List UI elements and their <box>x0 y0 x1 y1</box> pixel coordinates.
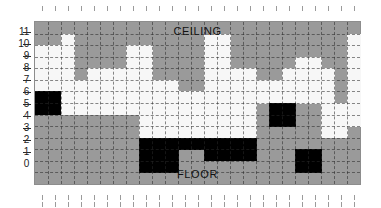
open-cell <box>165 103 179 115</box>
x-tick-mark <box>94 202 95 207</box>
x-tick-mark <box>328 195 329 200</box>
open-cell <box>35 45 49 57</box>
open-cell <box>87 103 101 115</box>
open-cell <box>126 57 140 69</box>
open-cell <box>139 45 153 57</box>
solid-cell <box>35 91 49 103</box>
open-cell <box>139 103 153 115</box>
open-cell <box>282 91 296 103</box>
x-tick-mark <box>107 6 108 11</box>
x-tick-mark <box>263 6 264 11</box>
open-cell <box>243 126 257 138</box>
open-cell <box>139 126 153 138</box>
open-cell <box>139 91 153 103</box>
y-tick-dash <box>23 68 31 69</box>
solid-cell <box>165 149 179 161</box>
open-cell <box>230 91 244 103</box>
solid-cell <box>165 138 179 150</box>
open-cell <box>243 80 257 92</box>
x-tick-mark <box>55 6 56 11</box>
gridline-vertical <box>74 22 75 184</box>
open-cell <box>61 80 75 92</box>
x-tick-mark <box>341 202 342 207</box>
open-cell <box>230 68 244 80</box>
open-cell <box>178 115 192 127</box>
y-tick-dash <box>23 140 31 141</box>
x-tick-mark <box>133 6 134 11</box>
x-tick-mark <box>172 195 173 200</box>
open-cell <box>230 80 244 92</box>
y-tick-dash <box>23 32 31 33</box>
x-tick-mark <box>159 6 160 11</box>
gridline-vertical <box>269 22 270 184</box>
x-tick-mark <box>354 202 355 207</box>
x-tick-mark <box>237 202 238 207</box>
open-cell <box>152 103 166 115</box>
x-tick-mark <box>94 195 95 200</box>
open-cell <box>113 91 127 103</box>
x-tick-mark <box>146 6 147 11</box>
x-tick-mark <box>341 195 342 200</box>
x-tick-mark <box>159 202 160 207</box>
x-tick-mark <box>211 195 212 200</box>
x-tick-mark <box>198 195 199 200</box>
solid-cell <box>282 103 296 115</box>
x-tick-mark <box>133 202 134 207</box>
open-cell <box>48 45 62 57</box>
solid-cell <box>295 149 309 161</box>
open-cell <box>321 80 335 92</box>
open-cell <box>230 103 244 115</box>
open-cell <box>321 91 335 103</box>
open-cell <box>74 103 88 115</box>
x-tick-mark <box>42 195 43 200</box>
gridline-vertical <box>308 22 309 184</box>
gridline-vertical <box>100 22 101 184</box>
open-cell <box>100 80 114 92</box>
x-tick-mark <box>81 202 82 207</box>
open-cell <box>35 57 49 69</box>
x-tick-mark <box>302 6 303 11</box>
solid-cell <box>295 161 309 173</box>
gridline-vertical <box>191 22 192 184</box>
x-tick-mark <box>302 202 303 207</box>
open-cell <box>126 103 140 115</box>
gridline-vertical <box>48 22 49 184</box>
open-cell <box>217 45 231 57</box>
solid-cell <box>48 103 62 115</box>
tunnel-grid-plot: CEILINGFLOOR <box>35 22 360 184</box>
ceiling-label: CEILING <box>173 26 221 37</box>
gridline-vertical <box>217 22 218 184</box>
x-tick-mark <box>224 202 225 207</box>
solid-cell <box>191 138 205 150</box>
x-tick-mark <box>185 6 186 11</box>
open-cell <box>334 103 348 115</box>
x-tick-mark <box>172 6 173 11</box>
open-cell <box>139 115 153 127</box>
x-tick-mark <box>198 6 199 11</box>
open-cell <box>295 80 309 92</box>
open-cell <box>204 91 218 103</box>
x-tick-mark <box>250 195 251 200</box>
open-cell <box>334 126 348 138</box>
x-tick-mark <box>172 202 173 207</box>
x-tick-mark <box>185 195 186 200</box>
open-cell <box>217 91 231 103</box>
gridline-horizontal <box>35 149 360 150</box>
x-tick-mark <box>68 202 69 207</box>
y-tick-dash <box>23 116 31 117</box>
open-cell <box>74 80 88 92</box>
gridline-horizontal <box>35 91 360 92</box>
open-cell <box>126 80 140 92</box>
open-cell <box>139 57 153 69</box>
x-tick-mark <box>315 6 316 11</box>
open-cell <box>48 80 62 92</box>
x-tick-mark <box>354 195 355 200</box>
x-tick-mark <box>276 202 277 207</box>
gridline-vertical <box>126 22 127 184</box>
gridline-vertical <box>204 22 205 184</box>
open-cell <box>217 115 231 127</box>
solid-cell <box>269 115 283 127</box>
open-cell <box>295 68 309 80</box>
open-cell <box>165 115 179 127</box>
open-cell <box>165 80 179 92</box>
